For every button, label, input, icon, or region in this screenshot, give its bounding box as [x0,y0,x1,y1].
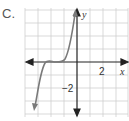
y-axis-down-arrow-icon [74,109,80,116]
y-axis-label: y [81,9,87,20]
x-axis-label: x [119,66,125,77]
x-axis-left-arrow-icon [26,59,33,65]
curve-bottom-arrow-icon [32,103,38,111]
y-tick-neg2: −2 [62,83,74,94]
x-axis-right-arrow-icon [121,59,128,65]
x-tick-2: 2 [99,66,105,77]
graph: y x 2 −2 [0,0,129,121]
